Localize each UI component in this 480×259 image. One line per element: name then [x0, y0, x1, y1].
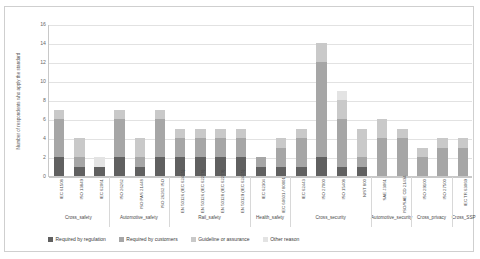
bar-stack[interactable]: [236, 129, 246, 177]
bar-segment[interactable]: [417, 148, 427, 158]
bar-segment[interactable]: [135, 157, 145, 167]
bar-segment[interactable]: [397, 129, 407, 139]
bar-stack[interactable]: [155, 110, 165, 177]
group-label: Health_safety: [250, 215, 290, 221]
bar-segment[interactable]: [155, 157, 165, 176]
bar-segment[interactable]: [337, 91, 347, 101]
bar-segment[interactable]: [437, 138, 447, 148]
bar-segment[interactable]: [195, 129, 205, 139]
x-axis-tick-label: EN 50129 (IEC 62425): [241, 179, 246, 213]
bar-stack[interactable]: [135, 138, 145, 176]
bar-segment[interactable]: [458, 148, 468, 177]
chart-frame: Number of respondents who apply the stan…: [4, 6, 474, 252]
bar-stack[interactable]: [175, 129, 185, 177]
bar-segment[interactable]: [397, 138, 407, 176]
bar-segment[interactable]: [377, 119, 387, 138]
bar-segment[interactable]: [437, 148, 447, 177]
x-axis-tick-label: ISO 26262: [120, 179, 125, 213]
bar-segment[interactable]: [155, 119, 165, 157]
bar-segment[interactable]: [175, 138, 185, 157]
bar-stack[interactable]: [357, 129, 367, 177]
bar-segment[interactable]: [135, 167, 145, 177]
bar-stack[interactable]: [54, 110, 64, 177]
bar-segment[interactable]: [296, 167, 306, 177]
bar-stack[interactable]: [215, 129, 225, 177]
bar-segment[interactable]: [256, 157, 266, 167]
bar-segment[interactable]: [337, 100, 347, 119]
bar-segment[interactable]: [337, 167, 347, 177]
group-separator: [250, 177, 251, 227]
legend-item[interactable]: Required by regulation: [48, 236, 106, 242]
bar-stack[interactable]: [195, 129, 205, 177]
bar-segment[interactable]: [337, 119, 347, 167]
legend-item[interactable]: Required by customers: [119, 236, 178, 242]
bar-segment[interactable]: [236, 129, 246, 139]
bar-segment[interactable]: [316, 157, 326, 176]
bar-segment[interactable]: [74, 167, 84, 177]
bar-segment[interactable]: [357, 167, 367, 177]
bar-segment[interactable]: [316, 43, 326, 62]
bar-segment[interactable]: [215, 138, 225, 157]
group-separator: [411, 177, 412, 227]
bar-stack[interactable]: [377, 119, 387, 176]
bar-segment[interactable]: [114, 119, 124, 157]
group-separator: [109, 177, 110, 227]
bar-segment[interactable]: [276, 138, 286, 148]
x-axis-tick-label: ISO 15408: [342, 179, 347, 213]
bar-segment[interactable]: [256, 167, 266, 177]
bar-stack[interactable]: [74, 138, 84, 176]
x-axis-tick-label: IEC TR 63069: [464, 179, 469, 213]
x-axis-tick-label: ISO PAS 21448: [140, 179, 145, 213]
group-label: Automotive_safety: [109, 215, 170, 221]
bar-stack[interactable]: [417, 148, 427, 177]
bar-stack[interactable]: [276, 138, 286, 176]
bar-segment[interactable]: [135, 138, 145, 157]
bar-stack[interactable]: [256, 157, 266, 176]
legend-item[interactable]: Other reason: [263, 236, 300, 242]
bar-segment[interactable]: [74, 157, 84, 167]
bar-segment[interactable]: [114, 157, 124, 176]
y-axis-tick-label: 12: [40, 60, 46, 65]
bar-segment[interactable]: [236, 138, 246, 157]
y-axis-tick-label: 2: [43, 155, 46, 160]
bar-segment[interactable]: [417, 157, 427, 176]
bar-stack[interactable]: [437, 138, 447, 176]
legend-item[interactable]: Guideline or assurance: [191, 236, 250, 242]
bar-stack[interactable]: [94, 157, 104, 176]
bar-segment[interactable]: [54, 119, 64, 157]
bar-segment[interactable]: [114, 110, 124, 120]
bar-segment[interactable]: [94, 157, 104, 167]
bar-segment[interactable]: [316, 62, 326, 157]
bar-segment[interactable]: [54, 157, 64, 176]
bar-segment[interactable]: [195, 138, 205, 157]
bar-segment[interactable]: [215, 129, 225, 139]
bar-segment[interactable]: [276, 148, 286, 167]
y-axis-tick-label: 8: [43, 98, 46, 103]
bar-stack[interactable]: [316, 43, 326, 176]
bar-stack[interactable]: [458, 138, 468, 176]
bar-segment[interactable]: [94, 167, 104, 177]
bar-segment[interactable]: [74, 138, 84, 157]
bar-segment[interactable]: [155, 110, 165, 120]
bar-segment[interactable]: [296, 129, 306, 139]
legend-swatch-icon: [191, 237, 196, 242]
bar-segment[interactable]: [54, 110, 64, 120]
bar-stack[interactable]: [337, 91, 347, 177]
bar-segment[interactable]: [377, 138, 387, 176]
x-axis-tick-label: EN 50128 (IEC 62279): [221, 179, 226, 213]
bar-segment[interactable]: [357, 129, 367, 158]
bar-segment[interactable]: [276, 167, 286, 177]
bar-segment[interactable]: [458, 138, 468, 148]
bar-stack[interactable]: [114, 110, 124, 177]
bar-segment[interactable]: [175, 129, 185, 139]
group-label: Cross_SSP: [452, 215, 472, 221]
y-axis-tick-label: 6: [43, 117, 46, 122]
y-axis-tick-label: 4: [43, 136, 46, 141]
bar-stack[interactable]: [296, 129, 306, 177]
group-label: Cross_safety: [48, 215, 109, 221]
bar-segment[interactable]: [296, 138, 306, 167]
bar-segment[interactable]: [357, 157, 367, 167]
bar-stack[interactable]: [397, 129, 407, 177]
group-label: Rail_safety: [169, 215, 250, 221]
legend-swatch-icon: [48, 237, 53, 242]
